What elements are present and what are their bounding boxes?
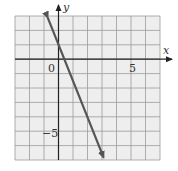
- x-tick-label-5: 5: [129, 62, 136, 75]
- origin-label: 0: [48, 62, 55, 75]
- graph: x y 0 5 −5: [0, 0, 178, 171]
- y-tick-label-neg5: −5: [42, 127, 58, 140]
- x-axis-label: x: [163, 44, 170, 57]
- y-axis-label: y: [62, 1, 70, 14]
